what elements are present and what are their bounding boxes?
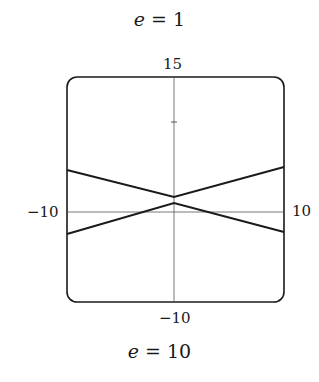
bottom-caption: e = 10 [0,340,319,362]
plot [0,0,319,382]
viewing-window-frame [67,77,284,302]
upper-branch-curve [67,167,284,197]
caption-value: = 10 [139,340,191,362]
lower-branch-curve [67,203,284,234]
caption-variable: e [128,340,139,362]
